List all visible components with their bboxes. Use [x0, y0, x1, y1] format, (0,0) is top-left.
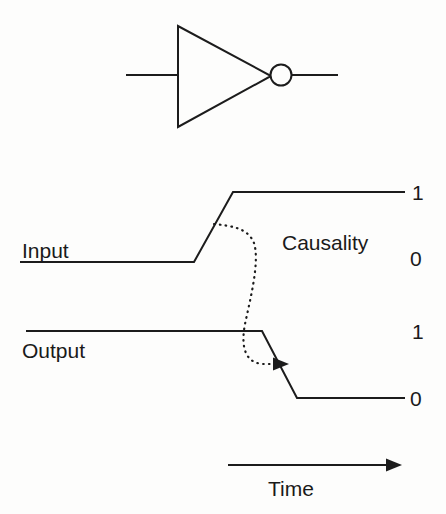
causality-label: Causality	[282, 231, 369, 254]
output-level-high-label: 1	[412, 320, 424, 343]
output-waveform: Output 1 0	[22, 320, 424, 410]
time-axis-arrowhead-icon	[386, 459, 402, 472]
gate-inversion-bubble-icon	[271, 65, 292, 86]
time-axis-label: Time	[268, 477, 314, 500]
gate-triangle-icon	[178, 26, 271, 127]
inverter-causality-figure: Input 1 0 Output 1 0 Causality Time	[0, 0, 446, 514]
output-waveform-label: Output	[22, 339, 85, 362]
output-level-low-label: 0	[410, 387, 422, 410]
causality-dotted-curve-icon	[214, 224, 276, 364]
causality-annotation: Causality	[214, 224, 369, 371]
input-waveform: Input 1 0	[20, 181, 424, 270]
time-axis: Time	[228, 459, 402, 501]
inverter-not-gate	[126, 26, 338, 127]
input-waveform-label: Input	[22, 239, 69, 262]
input-level-low-label: 0	[410, 247, 422, 270]
input-level-high-label: 1	[412, 181, 424, 204]
